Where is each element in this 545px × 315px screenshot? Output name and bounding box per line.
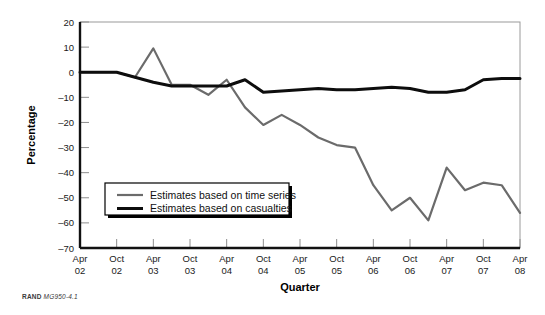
x-tick-label-month: Apr [73, 253, 88, 264]
x-tick-label-month: Oct [476, 253, 491, 264]
y-tick-label: –60 [58, 217, 74, 228]
x-tick-label-month: Apr [219, 253, 234, 264]
y-tick-label: 0 [69, 67, 74, 78]
x-tick-label-year: 04 [221, 265, 232, 276]
x-tick-label-month: Apr [439, 253, 454, 264]
figure-container: 20100–10–20–30–40–50–60–70 Apr02Oct02Apr… [0, 0, 545, 315]
x-axis-tick-labels: Apr02Oct02Apr03Oct03Apr04Oct04Apr05Oct05… [73, 253, 528, 276]
y-tick-label: –20 [58, 117, 74, 128]
y-tick-label: –30 [58, 142, 74, 153]
x-tick-label-month: Oct [403, 253, 418, 264]
x-tick-label-year: 07 [441, 265, 452, 276]
y-tick-label: –50 [58, 192, 74, 203]
x-tick-label-year: 05 [331, 265, 342, 276]
legend-label: Estimates based on casualties [150, 202, 292, 214]
x-tick-label-year: 03 [148, 265, 159, 276]
x-tick-label-month: Apr [293, 253, 308, 264]
y-tick-label: 20 [63, 17, 74, 28]
x-tick-label-year: 04 [258, 265, 269, 276]
y-axis-title: Percentage [25, 105, 37, 164]
x-tick-label-month: Apr [146, 253, 161, 264]
y-tick-label: –40 [58, 167, 74, 178]
percentage-by-quarter-line-chart: 20100–10–20–30–40–50–60–70 Apr02Oct02Apr… [0, 0, 545, 315]
credit-identifier: MG950-4.1 [44, 293, 78, 300]
credit-organization: RAND [22, 293, 42, 300]
x-tick-label-year: 07 [478, 265, 489, 276]
x-tick-label-month: Apr [366, 253, 381, 264]
y-tick-label: 10 [63, 42, 74, 53]
x-tick-label-year: 03 [185, 265, 196, 276]
x-tick-label-month: Oct [329, 253, 344, 264]
chart-legend: Estimates based on time seriesEstimates … [105, 183, 296, 218]
x-tick-label-month: Oct [183, 253, 198, 264]
x-tick-label-month: Oct [109, 253, 124, 264]
x-axis-title: Quarter [280, 281, 320, 293]
legend-label: Estimates based on time series [150, 189, 296, 201]
y-axis-tick-labels: 20100–10–20–30–40–50–60–70 [58, 17, 74, 254]
x-tick-label-year: 05 [295, 265, 306, 276]
x-tick-label-month: Apr [513, 253, 528, 264]
x-tick-label-year: 06 [405, 265, 416, 276]
x-tick-label-year: 02 [111, 265, 122, 276]
x-tick-label-year: 02 [75, 265, 86, 276]
y-tick-label: –10 [58, 92, 74, 103]
y-tick-label: –70 [58, 243, 74, 254]
figure-credit: RANDMG950-4.1 [22, 293, 78, 300]
x-tick-label-month: Oct [256, 253, 271, 264]
x-tick-label-year: 08 [515, 265, 526, 276]
x-tick-label-year: 06 [368, 265, 379, 276]
